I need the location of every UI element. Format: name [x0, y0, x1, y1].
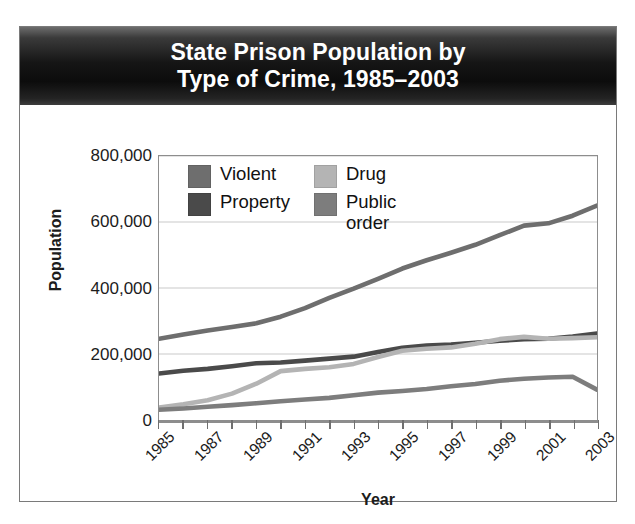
x-axis-ticks — [158, 420, 598, 429]
x-axis-tick-labels: 1985198719891991199319951997199920012003 — [158, 429, 598, 489]
legend-label: Property — [220, 191, 290, 212]
x-axis-tick — [280, 420, 281, 429]
y-axis-tick-label: 0 — [42, 412, 152, 429]
x-axis-tick — [231, 420, 232, 429]
x-axis-tick-label: 1987 — [191, 428, 228, 465]
legend-label: Drug — [346, 163, 386, 184]
x-axis-tick — [500, 420, 501, 429]
page-title-line-2: Type of Crime, 1985–2003 — [177, 66, 459, 93]
x-axis-tick — [182, 420, 183, 429]
x-axis-tick — [451, 420, 452, 429]
x-axis-tick — [525, 420, 526, 429]
legend-swatch-icon — [314, 165, 337, 188]
x-axis-tick-label: 2001 — [533, 428, 570, 465]
x-axis-tick — [329, 420, 330, 429]
figure-card: State Prison Population by Type of Crime… — [19, 26, 617, 502]
y-axis-tick-label: 200,000 — [42, 345, 152, 362]
x-axis-tick — [256, 420, 257, 429]
x-axis-tick-label: 1989 — [239, 428, 276, 465]
page-title-line-1: State Prison Population by — [170, 39, 465, 66]
x-axis-title: Year — [158, 491, 598, 509]
x-axis-tick — [598, 420, 599, 429]
legend-item-property[interactable]: Property — [188, 191, 290, 216]
x-axis-tick-label: 1991 — [288, 428, 325, 465]
chart-title-banner: State Prison Population by Type of Crime… — [20, 27, 616, 105]
chart-plot-body: Population 0200,000400,000600,000800,000… — [20, 105, 616, 501]
legend-label: Public order — [346, 191, 438, 233]
chart-legend: ViolentDrugPropertyPublic order — [188, 163, 438, 233]
y-axis-tick-label: 400,000 — [42, 279, 152, 296]
legend-item-violent[interactable]: Violent — [188, 163, 290, 188]
x-axis-tick-label: 1999 — [484, 428, 521, 465]
x-axis-tick — [476, 420, 477, 429]
legend-swatch-icon — [188, 193, 211, 216]
x-axis-tick — [378, 420, 379, 429]
x-axis-tick — [354, 420, 355, 429]
x-axis-tick — [158, 420, 159, 429]
x-axis-tick-label: 1995 — [386, 428, 423, 465]
y-axis-tick-labels: 0200,000400,000600,000800,000 — [42, 105, 152, 501]
x-axis-tick — [207, 420, 208, 429]
x-axis-tick — [402, 420, 403, 429]
x-axis-tick-label: 1993 — [337, 428, 374, 465]
legend-swatch-icon — [188, 165, 211, 188]
y-axis-tick-label: 600,000 — [42, 213, 152, 230]
legend-swatch-icon — [314, 193, 337, 216]
x-axis-tick — [305, 420, 306, 429]
x-axis-tick — [427, 420, 428, 429]
x-axis-tick-label: 2003 — [582, 428, 619, 465]
legend-item-public-order[interactable]: Public order — [314, 191, 438, 233]
y-axis-tick-label: 800,000 — [42, 147, 152, 164]
x-axis-tick — [549, 420, 550, 429]
legend-label: Violent — [220, 163, 276, 184]
x-axis-tick — [574, 420, 575, 429]
x-axis-tick-label: 1997 — [435, 428, 472, 465]
series-line-drug — [159, 337, 597, 408]
legend-item-drug[interactable]: Drug — [314, 163, 438, 188]
